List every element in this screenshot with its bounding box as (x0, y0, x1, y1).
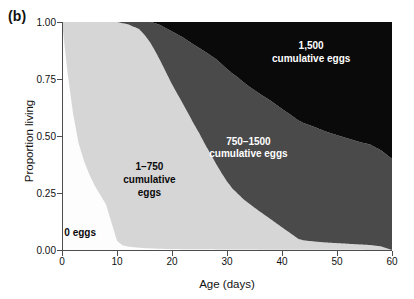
y-tick-label: 0.75 (22, 74, 56, 85)
axes-overlay (55, 22, 397, 262)
y-axis-tick-labels: 0.000.250.500.751.00 (18, 0, 56, 299)
x-axis-title: Age (days) (62, 278, 392, 290)
plot-area: 0 eggs1–750 cumulative eggs750–1500 cumu… (62, 22, 392, 250)
y-tick-label: 0.50 (22, 131, 56, 142)
figure-panel-b: (b) Proportion living Age (days) 0.000.2… (0, 0, 414, 299)
y-tick-label: 1.00 (22, 17, 56, 28)
y-tick-label: 0.00 (22, 245, 56, 256)
y-tick-label: 0.25 (22, 188, 56, 199)
